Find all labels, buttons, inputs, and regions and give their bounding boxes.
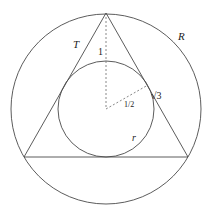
label-incircle-r: r [132, 132, 136, 143]
label-side-segment: √3 [151, 90, 162, 101]
label-triangle-T: T [73, 38, 80, 50]
label-circumcircle-R: R [177, 30, 185, 42]
geometry-diagram: T R 1 1/2 √3 r [0, 0, 205, 214]
label-apex-distance: 1 [98, 46, 103, 57]
label-inradius: 1/2 [124, 100, 134, 109]
